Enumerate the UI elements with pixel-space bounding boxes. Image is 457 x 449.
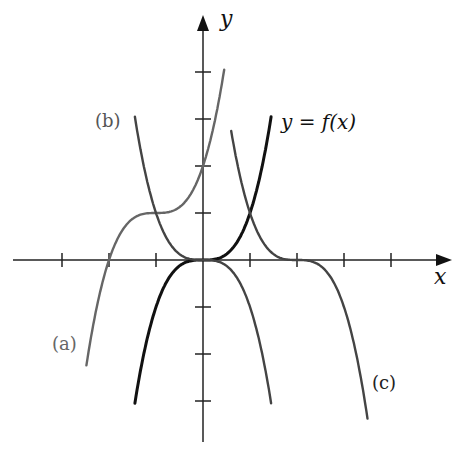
curve-c [231,131,367,419]
curve-b-label: (b) [95,110,121,131]
curve-a-label: (a) [52,333,77,354]
x-axis-label: x [434,264,446,289]
curve-c-label: (c) [372,372,396,393]
y-axis-arrow-icon [197,15,209,31]
graph-figure: y x y = f(x) (a) (b) (c) [0,0,457,449]
f-curve-label: y = f(x) [281,110,356,134]
y-axis-label: y [220,6,232,31]
